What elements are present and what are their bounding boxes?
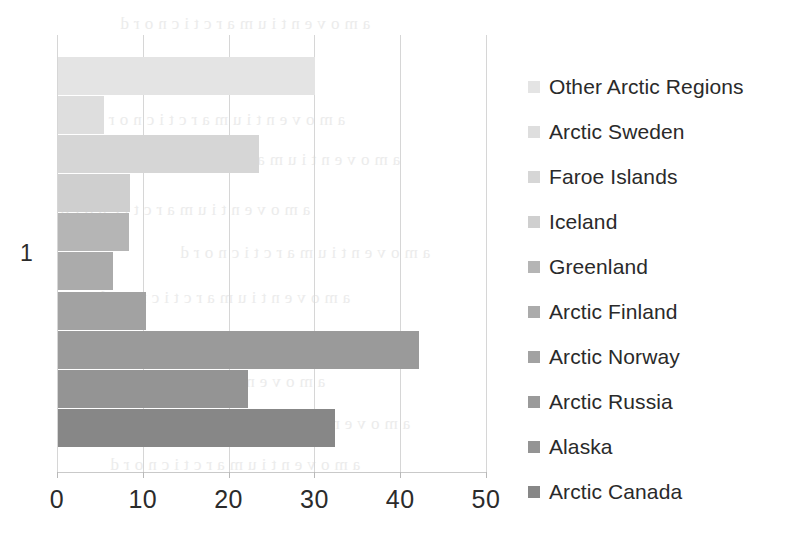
tick-mark [57, 472, 58, 478]
legend-item[interactable]: Arctic Sweden [528, 109, 744, 154]
bar[interactable] [58, 213, 129, 251]
bar-row [58, 135, 486, 174]
legend-swatch-icon [528, 126, 540, 138]
legend-item[interactable]: Iceland [528, 199, 744, 244]
bar[interactable] [58, 96, 104, 134]
legend-swatch-icon [528, 171, 540, 183]
legend-swatch-icon [528, 441, 540, 453]
x-axis-tick-label: 10 [128, 485, 157, 514]
x-axis-tick-label: 0 [50, 485, 64, 514]
bar-row [58, 213, 486, 252]
legend-swatch-icon [528, 81, 540, 93]
legend-swatch-icon [528, 216, 540, 228]
x-axis-tick-label: 30 [300, 485, 329, 514]
tick-mark [314, 472, 315, 478]
legend-item[interactable]: Arctic Finland [528, 289, 744, 334]
legend-item-label: Other Arctic Regions [549, 75, 744, 99]
legend-item-label: Arctic Canada [549, 480, 682, 504]
x-axis-tick-label: 50 [472, 485, 501, 514]
bar-row [58, 331, 486, 370]
gridline [486, 35, 487, 473]
legend-item-label: Arctic Russia [549, 390, 673, 414]
legend-item[interactable]: Arctic Norway [528, 334, 744, 379]
legend-swatch-icon [528, 486, 540, 498]
bar-row [58, 96, 486, 135]
legend-swatch-icon [528, 396, 540, 408]
legend-item-label: Arctic Sweden [549, 120, 685, 144]
bar[interactable] [58, 409, 335, 447]
chart-legend: Other Arctic RegionsArctic SwedenFaroe I… [528, 64, 744, 514]
bar-row [58, 409, 486, 448]
tick-mark [229, 472, 230, 478]
legend-item-label: Faroe Islands [549, 165, 678, 189]
bar-row [58, 292, 486, 331]
x-axis-tick-label: 40 [386, 485, 415, 514]
legend-item[interactable]: Alaska [528, 424, 744, 469]
legend-swatch-icon [528, 306, 540, 318]
legend-item-label: Alaska [549, 435, 613, 459]
bar[interactable] [58, 252, 113, 290]
legend-item-label: Greenland [549, 255, 648, 279]
bar-row [58, 57, 486, 96]
legend-item[interactable]: Greenland [528, 244, 744, 289]
tick-mark [143, 472, 144, 478]
plot-area [57, 35, 486, 473]
x-axis-tick-label: 20 [214, 485, 243, 514]
tick-mark [400, 472, 401, 478]
bar[interactable] [58, 174, 130, 212]
legend-item-label: Arctic Norway [549, 345, 680, 369]
bar-chart: 1 01020304050 Other Arctic RegionsArctic… [0, 0, 804, 541]
bar[interactable] [58, 331, 419, 369]
legend-item[interactable]: Arctic Canada [528, 469, 744, 514]
bar-row [58, 252, 486, 291]
legend-item[interactable]: Faroe Islands [528, 154, 744, 199]
bar[interactable] [58, 370, 248, 408]
legend-item-label: Arctic Finland [549, 300, 678, 324]
legend-item-label: Iceland [549, 210, 617, 234]
bar[interactable] [58, 135, 259, 173]
bar[interactable] [58, 292, 146, 330]
bar-row [58, 174, 486, 213]
bar-series [58, 57, 486, 448]
y-axis-category-label: 1 [20, 240, 33, 267]
legend-swatch-icon [528, 261, 540, 273]
x-axis-line [57, 472, 486, 473]
bar[interactable] [58, 57, 315, 95]
bar-row [58, 370, 486, 409]
legend-item[interactable]: Arctic Russia [528, 379, 744, 424]
legend-swatch-icon [528, 351, 540, 363]
legend-item[interactable]: Other Arctic Regions [528, 64, 744, 109]
tick-mark [486, 472, 487, 478]
